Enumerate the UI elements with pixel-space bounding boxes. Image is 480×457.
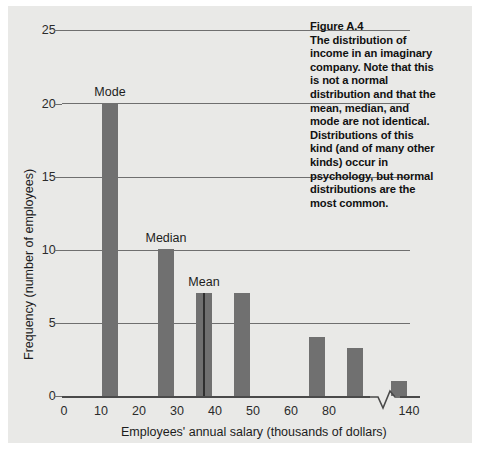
annotation-median: Median	[146, 231, 187, 245]
x-tick-label-80: 80	[322, 404, 336, 418]
mean-marker-rule	[203, 293, 205, 396]
y-tick-label-0: 0	[22, 389, 56, 403]
x-tick-label-20: 20	[132, 404, 146, 418]
annotation-mode: Mode	[94, 85, 125, 99]
y-tick-label-20: 20	[22, 97, 56, 111]
x-tick-label-50: 50	[246, 404, 260, 418]
figure-a4-root: 25 20 15 10 5 0 Frequency (number of emp…	[0, 0, 480, 457]
y-tick-mark-5	[54, 323, 62, 324]
figure-caption-body: The distribution of income in an imagina…	[310, 34, 438, 211]
figure-caption: Figure A.4 The distribution of income in…	[310, 20, 438, 210]
x-axis-break-zigzag	[368, 389, 402, 411]
bar-salary-10	[102, 103, 118, 396]
y-axis-title: Frequency (number of employees)	[22, 169, 36, 360]
y-tick-mark-25	[54, 30, 62, 31]
bar-salary-20	[158, 249, 174, 396]
x-axis-title: Employees' annual salary (thousands of d…	[121, 425, 387, 439]
annotation-mean: Mean	[188, 275, 219, 289]
x-tick-label-30: 30	[170, 404, 184, 418]
y-tick-label-25: 25	[22, 23, 56, 37]
bar-salary-40	[234, 293, 250, 396]
y-tick-mark-0	[54, 396, 62, 397]
x-tick-label-140: 140	[399, 404, 420, 418]
x-axis-line-left	[62, 396, 370, 398]
bar-salary-60	[309, 337, 325, 396]
x-tick-label-40: 40	[208, 404, 222, 418]
y-tick-mark-15	[54, 177, 62, 178]
x-axis-line-right	[400, 396, 420, 398]
y-tick-mark-10	[54, 250, 62, 251]
x-tick-label-0: 0	[61, 404, 68, 418]
y-tick-mark-20	[54, 104, 62, 105]
x-tick-label-60: 60	[284, 404, 298, 418]
bar-salary-80	[347, 348, 363, 396]
figure-caption-title: Figure A.4	[310, 20, 438, 34]
x-tick-label-10: 10	[94, 404, 108, 418]
